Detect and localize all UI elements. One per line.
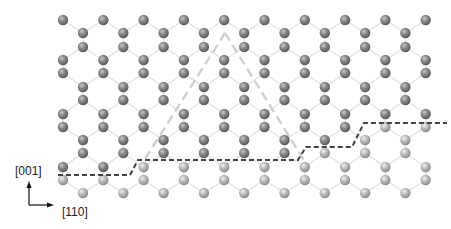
atom-lower-layer (179, 162, 189, 172)
atom-upper-layer (239, 148, 249, 158)
atom-upper-layer (279, 28, 289, 38)
atom-upper-layer (158, 95, 168, 105)
atom-upper-layer (360, 28, 370, 38)
atom-upper-layer (179, 122, 189, 132)
atom-upper-layer (219, 55, 229, 65)
atom-upper-layer (179, 15, 189, 25)
atom-lower-layer (320, 188, 330, 198)
atom-upper-layer (300, 55, 310, 65)
atom-lower-layer (380, 175, 390, 185)
atom-upper-layer (138, 68, 148, 78)
atom-lower-layer (259, 175, 269, 185)
atom-upper-layer (300, 109, 310, 119)
atom-upper-layer (239, 95, 249, 105)
atom-upper-layer (158, 148, 168, 158)
atom-upper-layer (179, 55, 189, 65)
atom-upper-layer (340, 55, 350, 65)
atom-upper-layer (400, 42, 410, 52)
atom-upper-layer (340, 15, 350, 25)
atom-upper-layer (98, 15, 108, 25)
atom-upper-layer (421, 15, 431, 25)
atom-lower-layer (340, 175, 350, 185)
atom-upper-layer (179, 68, 189, 78)
atom-upper-layer (219, 15, 229, 25)
atom-upper-layer (58, 122, 68, 132)
atom-upper-layer (320, 95, 330, 105)
atom-upper-layer (118, 42, 128, 52)
atom-upper-layer (118, 28, 128, 38)
atom-upper-layer (199, 82, 209, 92)
atom-upper-layer (279, 135, 289, 145)
atom-upper-layer (300, 68, 310, 78)
atom-lower-layer (179, 175, 189, 185)
atom-upper-layer (259, 68, 269, 78)
atom-upper-layer (239, 28, 249, 38)
atom-lower-layer (118, 188, 128, 198)
atom-upper-layer (239, 135, 249, 145)
atom-lower-layer (259, 162, 269, 172)
atom-upper-layer (58, 55, 68, 65)
atom-upper-layer (158, 28, 168, 38)
atom-lower-layer (320, 148, 330, 158)
atom-upper-layer (58, 15, 68, 25)
up-arrowhead-icon (27, 181, 32, 188)
atom-upper-layer (340, 109, 350, 119)
atom-upper-layer (320, 82, 330, 92)
atom-upper-layer (98, 109, 108, 119)
atom-upper-layer (279, 148, 289, 158)
atom-lower-layer (58, 175, 68, 185)
atom-upper-layer (380, 68, 390, 78)
atom-upper-layer (380, 15, 390, 25)
atom-upper-layer (279, 42, 289, 52)
atom-upper-layer (199, 42, 209, 52)
atom-upper-layer (400, 95, 410, 105)
atom-lower-layer (279, 188, 289, 198)
crystal-structure-diagram (0, 0, 451, 229)
atom-lower-layer (158, 188, 168, 198)
atom-upper-layer (259, 15, 269, 25)
atom-upper-layer (158, 82, 168, 92)
atom-upper-layer (158, 42, 168, 52)
atom-upper-layer (279, 82, 289, 92)
atom-lower-layer (219, 162, 229, 172)
atom-upper-layer (98, 55, 108, 65)
atom-lower-layer (78, 188, 88, 198)
atom-upper-layer (320, 42, 330, 52)
atom-upper-layer (219, 122, 229, 132)
atom-upper-layer (239, 42, 249, 52)
atom-lower-layer (421, 162, 431, 172)
atom-upper-layer (199, 95, 209, 105)
atom-lower-layer (300, 175, 310, 185)
atom-upper-layer (219, 109, 229, 119)
atom-upper-layer (98, 68, 108, 78)
atom-upper-layer (138, 109, 148, 119)
atom-upper-layer (380, 109, 390, 119)
atom-lower-layer (219, 175, 229, 185)
atom-lower-layer (360, 188, 370, 198)
atom-upper-layer (78, 28, 88, 38)
atom-upper-layer (360, 42, 370, 52)
atom-upper-layer (340, 122, 350, 132)
atom-upper-layer (58, 109, 68, 119)
atom-upper-layer (320, 28, 330, 38)
atom-upper-layer (320, 135, 330, 145)
atom-upper-layer (300, 122, 310, 132)
atom-upper-layer (259, 122, 269, 132)
atom-lower-layer (138, 162, 148, 172)
atom-upper-layer (380, 55, 390, 65)
atom-lower-layer (400, 148, 410, 158)
atom-upper-layer (340, 68, 350, 78)
atom-upper-layer (279, 95, 289, 105)
atom-lower-layer (138, 175, 148, 185)
atom-upper-layer (138, 122, 148, 132)
atom-upper-layer (78, 148, 88, 158)
atom-lower-layer (300, 162, 310, 172)
right-arrowhead-icon (47, 203, 54, 208)
atom-upper-layer (118, 148, 128, 158)
atom-lower-layer (400, 188, 410, 198)
atom-upper-layer (98, 162, 108, 172)
atom-lower-layer (360, 135, 370, 145)
atom-upper-layer (259, 55, 269, 65)
atom-upper-layer (179, 109, 189, 119)
atom-upper-layer (58, 68, 68, 78)
